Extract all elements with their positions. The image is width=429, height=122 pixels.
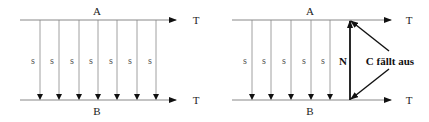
failure-arrow-top bbox=[351, 21, 389, 51]
time-label-top: T bbox=[406, 14, 413, 26]
signal-label: s bbox=[302, 55, 306, 66]
signal-label: s bbox=[243, 55, 247, 66]
failure-arrow-bottom bbox=[351, 69, 389, 99]
failure-label: C fällt aus bbox=[366, 55, 415, 67]
signal-label: s bbox=[321, 55, 325, 66]
signal-label: s bbox=[70, 55, 74, 66]
signal-labels: s s s s s bbox=[243, 55, 325, 66]
signal-label: s bbox=[89, 55, 93, 66]
left-diagram: A B T T s s s s s s s bbox=[20, 5, 200, 117]
signal-label: s bbox=[148, 55, 152, 66]
diagram-canvas: A B T T s s s s s s s A B T T bbox=[0, 0, 429, 122]
signal-label: s bbox=[109, 55, 113, 66]
signal-label: s bbox=[282, 55, 286, 66]
label-b: B bbox=[93, 105, 100, 117]
time-label-bottom: T bbox=[193, 94, 200, 106]
signal-label: s bbox=[128, 55, 132, 66]
n-label: N bbox=[339, 55, 347, 67]
signal-label: s bbox=[31, 55, 35, 66]
signal-labels: s s s s s s s bbox=[31, 55, 152, 66]
time-label-top: T bbox=[193, 14, 200, 26]
label-a: A bbox=[93, 5, 101, 17]
time-label-bottom: T bbox=[406, 94, 413, 106]
label-b: B bbox=[306, 105, 313, 117]
right-diagram: A B T T s s s s s N C fällt aus bbox=[232, 5, 415, 117]
label-a: A bbox=[306, 5, 314, 17]
signal-label: s bbox=[50, 55, 54, 66]
signal-arrows bbox=[40, 20, 156, 99]
signal-label: s bbox=[262, 55, 266, 66]
